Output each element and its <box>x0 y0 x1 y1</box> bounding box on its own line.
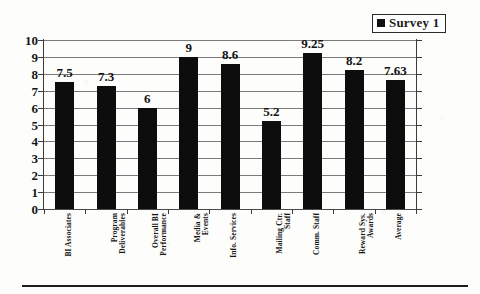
y-axis-right-line <box>416 39 417 210</box>
bar-value-label: 9.25 <box>293 37 333 50</box>
bar-value-label: 6 <box>127 92 167 105</box>
y-axis-tick-mark <box>417 57 422 58</box>
y-axis-tick-label: 2 <box>8 169 38 182</box>
bar[interactable] <box>179 57 198 209</box>
category-label-line: Comm. Staff <box>312 213 321 255</box>
bar-value-label: 7.3 <box>86 70 126 83</box>
bar[interactable] <box>55 82 74 209</box>
bar-value-label: 9 <box>169 41 209 54</box>
chart-page: Survey 1 109876543210 BI AssociatesProgr… <box>0 0 480 294</box>
y-axis-tick-mark <box>417 40 422 41</box>
y-axis-tick-mark <box>417 175 422 176</box>
y-axis-tick-label: 7 <box>8 85 38 98</box>
category-label-line: Performance <box>160 213 168 277</box>
bar-value-label: 7.63 <box>375 64 415 77</box>
y-axis-tick-mark <box>417 141 422 142</box>
y-axis-tick-label: 9 <box>8 51 38 64</box>
bar-value-label: 8.6 <box>210 48 250 61</box>
category-label-line: Average <box>394 213 403 240</box>
y-axis-tick-mark <box>417 192 422 193</box>
y-axis-tick-label: 6 <box>8 102 38 115</box>
bar[interactable] <box>345 70 364 209</box>
x-axis-category-labels: BI AssociatesProgramDeliverablesOverall … <box>44 213 417 279</box>
y-axis-tick-label: 10 <box>8 34 38 47</box>
category-label: Average <box>395 213 409 277</box>
category-label: ProgramDeliverables <box>111 213 125 277</box>
bar[interactable] <box>97 86 116 209</box>
y-axis-tick-label: 5 <box>8 119 38 132</box>
y-axis-tick-label: 4 <box>8 135 38 148</box>
y-axis-tick-mark <box>417 125 422 126</box>
y-axis-tick-mark <box>417 91 422 92</box>
bar-value-label: 5.2 <box>251 105 291 118</box>
category-label: Info. Services <box>230 213 244 277</box>
bar[interactable] <box>303 53 322 209</box>
category-label: Media &Events <box>194 213 208 277</box>
category-label: BI Associates <box>65 213 79 277</box>
legend-series-label: Survey 1 <box>389 16 439 30</box>
bar[interactable] <box>221 64 240 209</box>
y-axis-tick-mark <box>417 158 422 159</box>
y-axis-tick-mark <box>417 74 422 75</box>
y-axis-tick-label: 3 <box>8 152 38 165</box>
chart-legend: Survey 1 <box>372 14 446 33</box>
bar-value-label: 7.5 <box>45 66 85 79</box>
category-label: Comm. Staff <box>313 213 327 277</box>
category-label-line: Awards <box>367 213 375 277</box>
y-axis-tick-mark <box>417 108 422 109</box>
y-axis-left-line <box>43 39 44 210</box>
category-label: Overall BIPerformance <box>152 213 166 277</box>
gridline <box>44 40 416 41</box>
bottom-divider <box>22 285 468 287</box>
category-label-line: Staff <box>284 213 292 277</box>
category-label-line: BI Associates <box>64 213 73 257</box>
category-label-line: Deliverables <box>119 213 127 277</box>
y-axis-tick-label: 0 <box>8 203 38 216</box>
bar-value-label: 8.2 <box>334 54 374 67</box>
y-axis-tick-mark <box>417 209 422 210</box>
legend-series-marker-icon <box>377 19 385 27</box>
bar[interactable] <box>138 108 157 209</box>
bar[interactable] <box>262 121 281 209</box>
category-label-line: Events <box>202 213 210 277</box>
category-label: Mailing Ctr.Staff <box>276 213 290 277</box>
y-axis-labels: 109876543210 <box>2 0 38 294</box>
y-axis-tick-label: 8 <box>8 68 38 81</box>
category-label: Reward Sys.Awards <box>359 213 373 277</box>
y-axis-tick-label: 1 <box>8 186 38 199</box>
category-label-line: Info. Services <box>229 213 238 258</box>
bar[interactable] <box>386 80 405 209</box>
